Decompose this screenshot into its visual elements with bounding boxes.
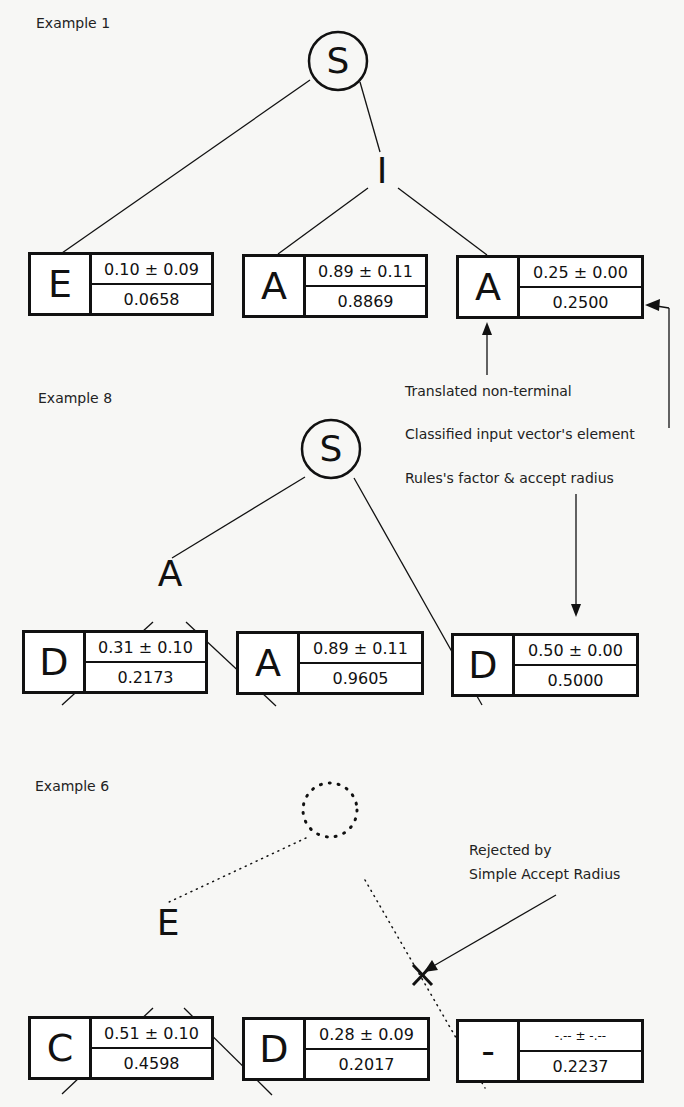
inner-node-label: E — [148, 905, 188, 941]
leaf-symbol: - — [459, 1022, 520, 1080]
leaf-box: C 0.51 ± 0.100.4598 — [28, 1016, 214, 1080]
leaf-symbol: D — [25, 633, 86, 691]
factor-radius: 0.28 ± 0.09 — [306, 1020, 427, 1050]
input-value: 0.9605 — [300, 664, 421, 692]
factor-radius: 0.50 ± 0.00 — [515, 636, 636, 666]
input-value: 0.2173 — [86, 663, 205, 691]
example-title: Example 6 — [35, 778, 109, 794]
legend-translated-non-terminal: Translated non-terminal — [405, 383, 572, 399]
inner-node-label: I — [362, 153, 402, 189]
leaf-box: D 0.31 ± 0.100.2173 — [22, 630, 208, 694]
legend-rules-factor: Rules's factor & accept radius — [405, 470, 614, 486]
leaf-box: D 0.28 ± 0.090.2017 — [242, 1017, 430, 1081]
leaf-box-rejected: - -.-- ± -.--0.2237 — [456, 1019, 644, 1083]
leaf-symbol: A — [239, 634, 300, 692]
leaf-symbol: A — [459, 258, 520, 316]
inner-node-label: A — [150, 556, 190, 592]
factor-radius: 0.31 ± 0.10 — [86, 633, 205, 663]
example-title: Example 1 — [36, 15, 110, 31]
leaf-box: D 0.50 ± 0.000.5000 — [451, 633, 639, 697]
diagram-lines — [0, 0, 684, 1107]
input-value: 0.8869 — [306, 287, 425, 315]
factor-radius: 0.25 ± 0.00 — [520, 258, 641, 288]
leaf-box: A 0.25 ± 0.000.2500 — [456, 255, 644, 319]
rejected-root-circle — [303, 783, 357, 837]
input-value: 0.0658 — [92, 285, 211, 313]
leaf-symbol: D — [454, 636, 515, 694]
factor-radius: 0.89 ± 0.11 — [306, 257, 425, 287]
leaf-symbol: E — [31, 255, 92, 313]
rejected-note: Rejected by Simple Accept Radius — [469, 838, 620, 886]
input-value: 0.2500 — [520, 288, 641, 316]
rejected-note-line1: Rejected by — [469, 838, 620, 862]
input-value: 0.2237 — [520, 1052, 641, 1080]
factor-radius: -.-- ± -.-- — [520, 1022, 641, 1052]
root-node-label: S — [308, 43, 368, 79]
leaf-symbol: A — [245, 257, 306, 315]
input-value: 0.5000 — [515, 666, 636, 694]
input-value: 0.4598 — [92, 1049, 211, 1077]
leaf-symbol: C — [31, 1019, 92, 1077]
factor-radius: 0.89 ± 0.11 — [300, 634, 421, 664]
example-title: Example 8 — [38, 390, 112, 406]
leaf-symbol: D — [245, 1020, 306, 1078]
leaf-box: A 0.89 ± 0.110.9605 — [236, 631, 424, 695]
factor-radius: 0.51 ± 0.10 — [92, 1019, 211, 1049]
leaf-box: E 0.10 ± 0.090.0658 — [28, 252, 214, 316]
factor-radius: 0.10 ± 0.09 — [92, 255, 211, 285]
leaf-box: A 0.89 ± 0.110.8869 — [242, 254, 428, 318]
root-node-label: S — [301, 431, 361, 467]
legend-classified-input: Classified input vector's element — [405, 426, 635, 442]
rejected-note-line2: Simple Accept Radius — [469, 862, 620, 886]
input-value: 0.2017 — [306, 1050, 427, 1078]
